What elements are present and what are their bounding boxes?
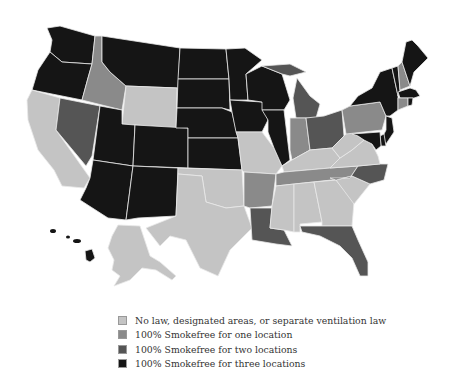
state-CT bbox=[398, 98, 408, 110]
state-AR bbox=[244, 172, 276, 208]
legend-item-one: 100% Smokefree for one location bbox=[118, 328, 386, 343]
legend-swatch bbox=[118, 359, 127, 368]
state-CO bbox=[133, 125, 188, 168]
legend-label: 100% Smokefree for three locations bbox=[135, 358, 305, 369]
state-PA bbox=[342, 102, 386, 134]
legend-swatch bbox=[118, 316, 127, 325]
state-HI bbox=[50, 229, 95, 262]
legend-item-two: 100% Smokefree for two locations bbox=[118, 342, 386, 357]
legend: No law, designated areas, or separate ve… bbox=[118, 313, 386, 371]
legend-item-three: 100% Smokefree for three locations bbox=[118, 357, 386, 372]
state-FL bbox=[300, 226, 368, 276]
legend-item-none: No law, designated areas, or separate ve… bbox=[118, 313, 386, 328]
state-ND bbox=[178, 48, 229, 79]
state-KS bbox=[188, 138, 242, 170]
us-smokefree-map bbox=[0, 0, 455, 300]
state-RI bbox=[408, 98, 413, 106]
legend-label: 100% Smokefree for two locations bbox=[135, 344, 297, 355]
legend-label: 100% Smokefree for one location bbox=[135, 329, 292, 340]
state-WY bbox=[122, 86, 177, 128]
legend-label: No law, designated areas, or separate ve… bbox=[135, 315, 386, 326]
legend-swatch bbox=[118, 330, 127, 339]
state-AZ bbox=[80, 160, 133, 220]
legend-swatch bbox=[118, 345, 127, 354]
state-NM bbox=[126, 166, 178, 220]
state-SD bbox=[177, 79, 230, 110]
